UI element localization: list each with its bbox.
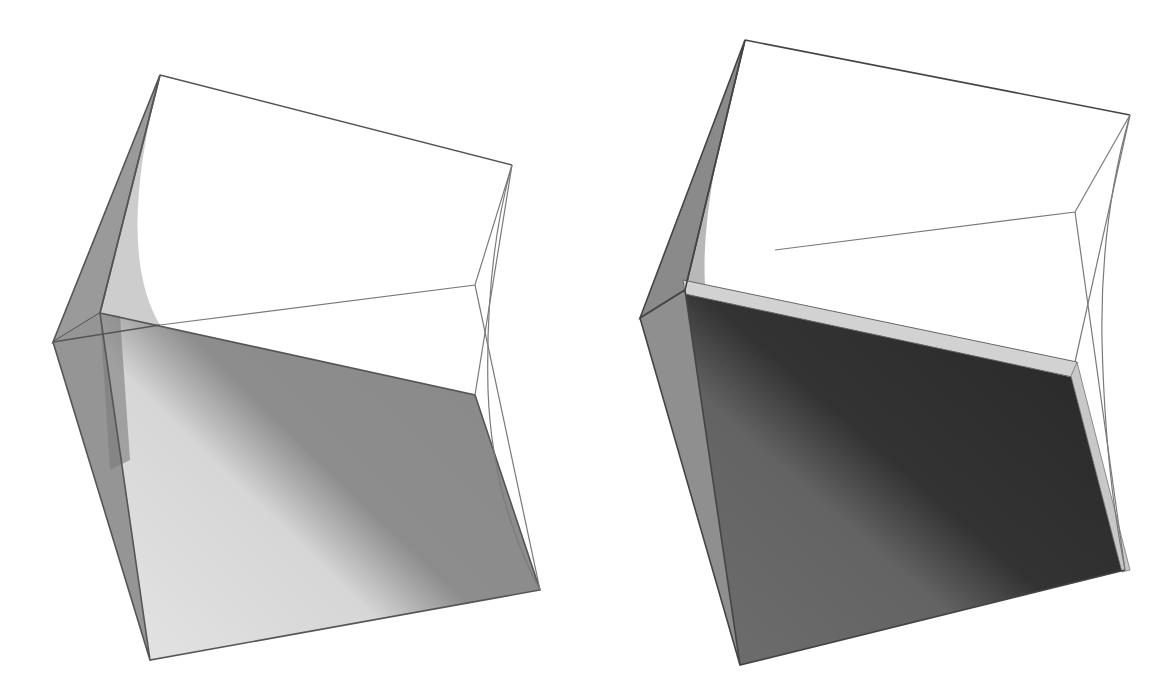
right-panel [640, 40, 1130, 665]
left-bottom-face [100, 313, 540, 660]
right-bottom-face [685, 290, 1125, 665]
left-panel [53, 75, 540, 660]
figure [0, 0, 1161, 696]
